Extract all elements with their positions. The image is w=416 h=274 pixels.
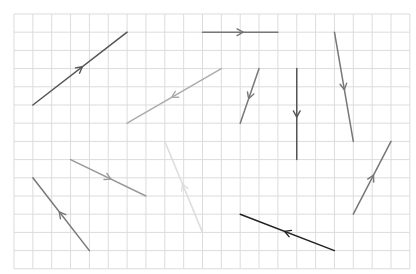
diagram-svg xyxy=(0,0,416,274)
vector-line xyxy=(127,69,221,124)
vector-b xyxy=(127,69,221,124)
vector-e xyxy=(293,69,300,160)
vector-c xyxy=(203,29,278,36)
vectors-layer xyxy=(33,29,391,251)
vector-line xyxy=(240,69,259,124)
vector-d xyxy=(240,69,259,124)
vector-diagram xyxy=(0,0,416,274)
